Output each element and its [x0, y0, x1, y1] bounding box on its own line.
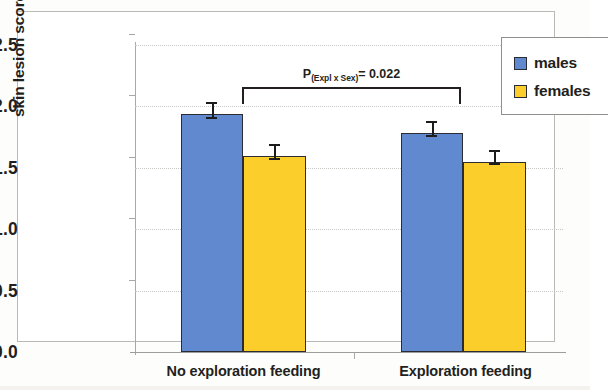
scan-edge-artifact: [0, 386, 590, 390]
p-prefix: P: [303, 67, 311, 81]
error-cap-bottom-females-no-exploration-feeding: [269, 158, 280, 160]
legend-swatch-females-icon: [514, 85, 527, 98]
error-cap-top-females-no-exploration-feeding: [269, 144, 280, 146]
bar-females-exploration-feeding[interactable]: [463, 162, 526, 352]
gridline-2-0: [135, 106, 563, 107]
error-cap-bottom-females-exploration-feeding: [489, 163, 500, 165]
error-cap-bottom-males-no-exploration-feeding: [206, 117, 217, 119]
error-bar-males-exploration-feeding: [432, 121, 434, 135]
error-cap-top-males-exploration-feeding: [426, 121, 437, 123]
gridline-2-5: [135, 45, 563, 46]
legend-swatch-males-icon: [514, 57, 527, 70]
y-tick-mark-2-5: [129, 34, 135, 35]
y-tick-label-1-5: 1.5: [0, 158, 18, 179]
p-suffix: = 0.022: [358, 67, 400, 81]
y-tick-label-0-5: 0.5: [0, 281, 18, 302]
bar-females-no-exploration-feeding[interactable]: [243, 156, 306, 352]
legend-item-females[interactable]: females: [514, 77, 608, 105]
significance-label: P(Expl x Sex)= 0.022: [242, 67, 461, 81]
p-subscript: (Expl x Sex): [311, 73, 358, 83]
error-cap-bottom-males-exploration-feeding: [426, 135, 437, 137]
y-tick-label-2-0: 2.0: [0, 96, 18, 117]
bar-males-exploration-feeding[interactable]: [401, 133, 463, 352]
y-tick-label-2-5: 2.5: [0, 35, 18, 56]
error-cap-top-males-no-exploration-feeding: [206, 102, 217, 104]
error-bar-males-no-exploration-feeding: [212, 102, 214, 117]
bar-males-no-exploration-feeding[interactable]: [181, 114, 243, 352]
legend-item-males[interactable]: males: [514, 49, 608, 77]
legend-label-females: females: [534, 82, 590, 100]
x-axis-label-exploration-feeding: Exploration feeding: [348, 363, 583, 379]
error-cap-top-females-exploration-feeding: [489, 150, 500, 152]
figure-frame: skin lesion score front body (0-5) 2.5 2…: [17, 11, 555, 342]
y-tick-label-1-0: 1.0: [0, 219, 18, 240]
y-tick-label-0-0: 0.0: [0, 342, 18, 363]
legend: males females: [501, 37, 608, 115]
error-bar-females-no-exploration-feeding: [274, 144, 276, 158]
x-axis-label-no-exploration-feeding: No exploration feeding: [126, 363, 361, 379]
legend-label-males: males: [534, 54, 577, 72]
x-axis-line: [130, 352, 566, 353]
significance-bracket: [242, 87, 461, 104]
x-axis-center-tick: [354, 352, 355, 359]
